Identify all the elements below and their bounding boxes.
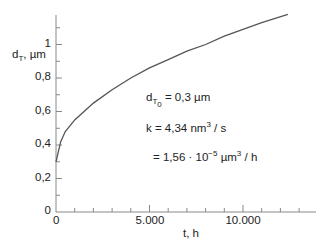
y-tick-label: 0,8 [11, 71, 51, 83]
y-tick-label: 0,2 [11, 172, 51, 184]
x-tick-label: 10.000 [218, 215, 268, 227]
x-ticks [75, 205, 299, 212]
x-tick-label: 5.000 [125, 215, 175, 227]
x-origin-label: 0 [53, 215, 59, 227]
y-tick-label: 0,4 [11, 138, 51, 150]
annotation-k: k = 4,34 nm3 / s [146, 123, 226, 135]
y-axis-label: dT, µm [12, 49, 46, 61]
y-ticks [56, 28, 62, 196]
data-line [56, 14, 288, 161]
x-axis-label: t, h [183, 228, 199, 240]
y-tick-label: 1 [11, 38, 51, 50]
y-tick-label: 0 [11, 205, 51, 217]
annotation-d0: dT0 = 0,3 µm [146, 92, 210, 105]
annotation-k-converted: = 1,56 · 10−5 µm3 / h [153, 152, 257, 164]
y-tick-label: 0,6 [11, 105, 51, 117]
